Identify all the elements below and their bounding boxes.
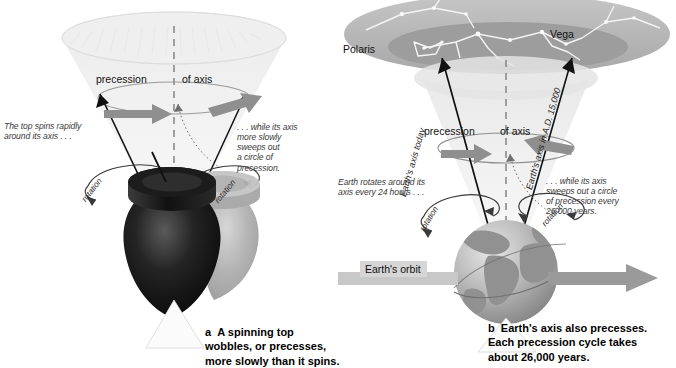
caption-b: b Earth's axis also precesses. Each prec…: [488, 306, 676, 364]
star-label-vega: Vega: [550, 28, 574, 40]
precession-label-right-b: of axis: [500, 125, 530, 137]
caption-letter-b: b: [488, 322, 495, 334]
star-label-polaris: Polaris: [343, 43, 375, 55]
caption-text-a: A spinning top wobbles, or precesses, mo…: [205, 326, 339, 367]
precession-label-right-a: of axis: [182, 73, 212, 85]
caption-a: a A spinning top wobbles, or precesses, …: [205, 310, 345, 368]
precession-label-left-a: precession: [96, 73, 147, 85]
note-left-a: The top spins rapidly around its axis . …: [4, 121, 81, 141]
earth-orbit-label: Earth's orbit: [360, 261, 427, 277]
precession-label-left-b: precession: [424, 125, 475, 137]
note-left-b: Earth rotates around its axis every 24 h…: [338, 177, 425, 197]
caption-text-b: Earth's axis also precesses. Each preces…: [488, 322, 647, 363]
note-right-a: . . . while its axis more slowly sweeps …: [237, 122, 298, 173]
panel-earth-precession: Polaris Vega Earth's axis today Earth's …: [338, 0, 676, 356]
lower-cone-a: [146, 300, 204, 348]
panel-a-artwork: [0, 0, 338, 356]
panel-spinning-top: precession of axis The top spins rapidly…: [0, 0, 338, 356]
